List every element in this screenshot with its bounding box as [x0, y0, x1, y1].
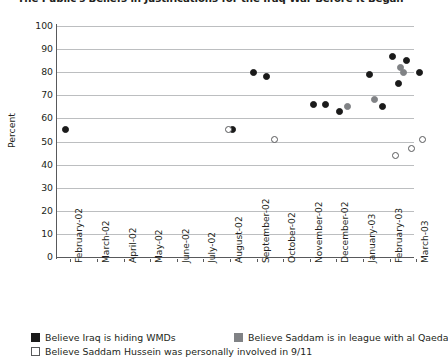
x-tick [310, 259, 311, 262]
data-point-nineeleven [392, 152, 399, 159]
legend-swatch-wmd-icon [31, 333, 40, 342]
legend-swatch-nineeleven-icon [31, 347, 40, 356]
x-tick-label: July-02 [207, 232, 217, 263]
x-tick-label: May-02 [154, 230, 164, 264]
data-point-wmd [416, 69, 423, 76]
x-tick [150, 259, 151, 262]
data-point-wmd [62, 126, 69, 133]
x-tick [230, 259, 231, 262]
data-point-wmd [336, 108, 343, 115]
x-tick-label: February-03 [394, 208, 404, 263]
x-tick [283, 259, 284, 262]
x-tick [70, 259, 71, 262]
y-tick-label: 40 [27, 160, 53, 169]
chart-legend: Believe Iraq is hiding WMDsBelieve Sadda… [31, 333, 421, 363]
y-axis-label: Percent [6, 101, 17, 161]
gridline-40 [57, 165, 414, 166]
x-tick-label: March-02 [101, 220, 111, 263]
x-tick-label: December-02 [340, 202, 350, 263]
y-tick-label: 0 [27, 252, 53, 261]
gridline-20 [57, 211, 414, 212]
gridline-90 [57, 49, 414, 50]
y-tick-label: 70 [27, 90, 53, 99]
data-point-wmd [310, 101, 317, 108]
gridline-60 [57, 118, 414, 119]
data-point-wmd [263, 73, 270, 80]
y-tick-label: 30 [27, 183, 53, 192]
legend-swatch-qaeda-icon [234, 333, 243, 342]
x-tick-label: August-02 [234, 216, 244, 263]
y-tick-label: 50 [27, 137, 53, 146]
x-tick [124, 259, 125, 262]
data-point-wmd [366, 71, 373, 78]
x-tick-label: September-02 [261, 198, 271, 263]
data-point-qaeda [400, 69, 407, 76]
y-tick-label: 90 [27, 44, 53, 53]
data-point-nineeleven [408, 145, 415, 152]
y-tick-label: 10 [27, 229, 53, 238]
x-tick [416, 259, 417, 262]
x-tick [336, 259, 337, 262]
data-point-nineeleven [271, 136, 278, 143]
data-point-wmd [322, 101, 329, 108]
data-point-qaeda [344, 103, 351, 110]
legend-label: Believe Saddam Hussein was personally in… [45, 347, 312, 356]
y-tick-label: 80 [27, 67, 53, 76]
data-point-wmd [379, 103, 386, 110]
legend-item-qaeda[interactable]: Believe Saddam is in league with al Qaed… [234, 333, 448, 342]
data-point-nineeleven [225, 126, 232, 133]
legend-item-nineeleven[interactable]: Believe Saddam Hussein was personally in… [31, 347, 312, 356]
legend-label: Believe Iraq is hiding WMDs [45, 333, 176, 342]
x-tick [257, 259, 258, 262]
y-tick-label: 20 [27, 206, 53, 215]
x-tick-label: April-02 [128, 227, 138, 263]
x-tick-label: June-02 [181, 228, 191, 263]
gridline-70 [57, 95, 414, 96]
x-tick-label: March-03 [420, 220, 430, 263]
data-point-nineeleven [419, 136, 426, 143]
gridline-100 [57, 26, 414, 27]
data-point-wmd [395, 80, 402, 87]
gridline-30 [57, 188, 414, 189]
x-axis-ticks: February-02March-02April-02May-02June-02… [57, 259, 414, 329]
data-point-wmd [250, 69, 257, 76]
x-tick [390, 259, 391, 262]
gridline-50 [57, 142, 414, 143]
y-tick-label: 60 [27, 113, 53, 122]
data-point-wmd [389, 53, 396, 60]
y-tick-label: 100 [27, 21, 53, 30]
x-tick-label: February-02 [74, 208, 84, 263]
x-tick-label: November-02 [314, 201, 324, 263]
x-tick-label: January-03 [367, 214, 377, 263]
x-tick [177, 259, 178, 262]
legend-item-wmd[interactable]: Believe Iraq is hiding WMDs [31, 333, 176, 342]
x-tick [363, 259, 364, 262]
x-tick [97, 259, 98, 262]
gridline-80 [57, 72, 414, 73]
y-axis-ticks: 1009080706050403020100 [20, 0, 53, 364]
data-point-qaeda [371, 96, 378, 103]
legend-label: Believe Saddam is in league with al Qaed… [248, 333, 448, 342]
x-tick [203, 259, 204, 262]
x-tick-label: October-02 [287, 212, 297, 263]
chart-title: The Public's Beliefs in Justifications f… [0, 0, 421, 4]
data-point-wmd [403, 57, 410, 64]
